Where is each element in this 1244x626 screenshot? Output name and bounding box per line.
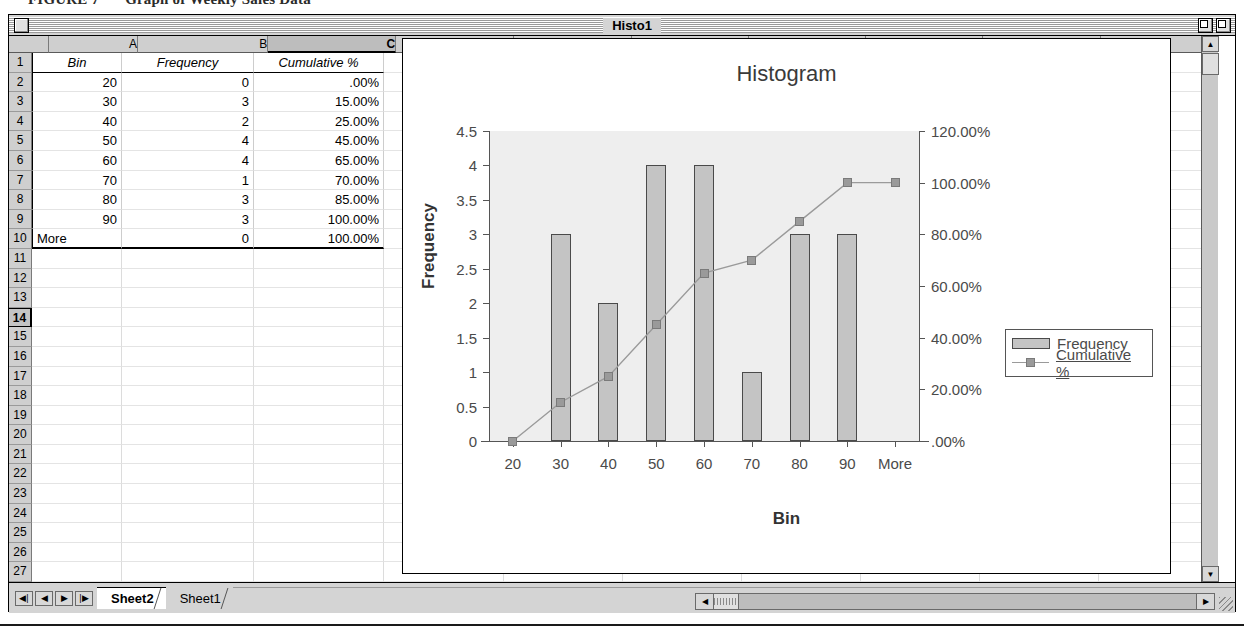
cell-B15[interactable] [122, 327, 254, 347]
cell-B18[interactable] [122, 386, 254, 406]
embedded-chart[interactable]: Histogram 00.511.522.533.544.5.00%20.00%… [402, 38, 1171, 574]
cell-B24[interactable] [122, 504, 254, 524]
cell-B25[interactable] [122, 523, 254, 543]
cell-A10[interactable]: More [32, 229, 122, 249]
cell-C4[interactable]: 25.00% [254, 112, 384, 132]
cell-A2[interactable]: 20 [32, 73, 122, 93]
chart-line-marker[interactable] [652, 320, 661, 329]
cell-A6[interactable]: 60 [32, 151, 122, 171]
cell-C12[interactable] [254, 269, 384, 289]
row-header-12[interactable]: 12 [9, 269, 32, 289]
zoom-box-icon[interactable] [1198, 18, 1213, 33]
chart-bar[interactable] [790, 234, 810, 441]
cell-B9[interactable]: 3 [122, 210, 254, 230]
chart-line-marker[interactable] [843, 178, 852, 187]
cell-C20[interactable] [254, 425, 384, 445]
cell-A19[interactable] [32, 406, 122, 426]
row-header-26[interactable]: 26 [9, 543, 32, 563]
cell-C25[interactable] [254, 523, 384, 543]
chart-line-marker[interactable] [604, 372, 613, 381]
cell-A17[interactable] [32, 367, 122, 387]
cell-B2[interactable]: 0 [122, 73, 254, 93]
cell-B11[interactable] [122, 249, 254, 269]
cell-A24[interactable] [32, 504, 122, 524]
cell-B20[interactable] [122, 425, 254, 445]
row-header-3[interactable]: 3 [9, 92, 32, 112]
row-header-10[interactable]: 10 [9, 229, 32, 249]
cell-C9[interactable]: 100.00% [254, 210, 384, 230]
row-header-24[interactable]: 24 [9, 504, 32, 524]
vertical-scroll-thumb[interactable] [1202, 53, 1219, 75]
scroll-up-arrow-icon[interactable]: ▲ [1202, 36, 1219, 52]
row-header-1[interactable]: 1 [9, 53, 32, 73]
cell-A12[interactable] [32, 269, 122, 289]
scroll-down-arrow-icon[interactable]: ▼ [1202, 566, 1219, 582]
window-resize-grip-icon[interactable] [1219, 597, 1233, 611]
cell-B8[interactable]: 3 [122, 190, 254, 210]
cell-C21[interactable] [254, 445, 384, 465]
cell-A9[interactable]: 90 [32, 210, 122, 230]
cell-C5[interactable]: 45.00% [254, 131, 384, 151]
cell-C13[interactable] [254, 288, 384, 308]
row-header-11[interactable]: 11 [9, 249, 32, 269]
chart-bar[interactable] [551, 234, 571, 441]
cell-A11[interactable] [32, 249, 122, 269]
cell-B12[interactable] [122, 269, 254, 289]
horizontal-scroll-track[interactable] [739, 594, 1196, 609]
cell-C18[interactable] [254, 386, 384, 406]
legend-item-cumulative[interactable]: Cumulative % [1012, 353, 1146, 372]
cell-B5[interactable]: 4 [122, 131, 254, 151]
cell-A27[interactable] [32, 562, 122, 582]
horizontal-scroll-thumb[interactable] [714, 594, 739, 609]
cell-A14[interactable] [32, 308, 122, 328]
window-title-bar[interactable]: Histo1 [9, 15, 1235, 36]
cell-C6[interactable]: 65.00% [254, 151, 384, 171]
row-header-15[interactable]: 15 [9, 327, 32, 347]
cell-A13[interactable] [32, 288, 122, 308]
horizontal-scrollbar[interactable]: ◀ ▶ [695, 593, 1215, 610]
last-sheet-arrow-icon[interactable]: |▶ [75, 591, 93, 606]
row-header-13[interactable]: 13 [9, 288, 32, 308]
cell-A5[interactable]: 50 [32, 131, 122, 151]
row-header-8[interactable]: 8 [9, 190, 32, 210]
cell-B4[interactable]: 2 [122, 112, 254, 132]
prev-sheet-arrow-icon[interactable]: ◀ [35, 591, 53, 606]
cell-B17[interactable] [122, 367, 254, 387]
scroll-left-arrow-icon[interactable]: ◀ [696, 594, 714, 609]
cell-B27[interactable] [122, 562, 254, 582]
vertical-scrollbar[interactable]: ▲ ▼ [1201, 36, 1218, 582]
chart-bar[interactable] [837, 234, 857, 441]
next-sheet-arrow-icon[interactable]: ▶ [55, 591, 73, 606]
cell-C3[interactable]: 15.00% [254, 92, 384, 112]
column-header-a[interactable]: A [49, 36, 138, 53]
chart-bar[interactable] [646, 165, 666, 441]
cell-A20[interactable] [32, 425, 122, 445]
cell-C11[interactable] [254, 249, 384, 269]
row-header-19[interactable]: 19 [9, 406, 32, 426]
row-header-7[interactable]: 7 [9, 171, 32, 191]
cell-C17[interactable] [254, 367, 384, 387]
sheet-tabs[interactable]: Sheet2 Sheet1 [97, 588, 233, 609]
chart-line-marker[interactable] [747, 256, 756, 265]
cell-B21[interactable] [122, 445, 254, 465]
cell-C22[interactable] [254, 464, 384, 484]
row-header-14[interactable]: 14 [9, 308, 32, 328]
row-header-25[interactable]: 25 [9, 523, 32, 543]
cell-A23[interactable] [32, 484, 122, 504]
cell-C23[interactable] [254, 484, 384, 504]
cell-A7[interactable]: 70 [32, 171, 122, 191]
row-header-17[interactable]: 17 [9, 367, 32, 387]
chart-line-marker[interactable] [556, 398, 565, 407]
column-header-c[interactable]: C [268, 36, 396, 53]
cell-A22[interactable] [32, 464, 122, 484]
cell-B6[interactable]: 4 [122, 151, 254, 171]
cell-C16[interactable] [254, 347, 384, 367]
window-controls[interactable] [1198, 18, 1231, 33]
cell-A8[interactable]: 80 [32, 190, 122, 210]
cell-C15[interactable] [254, 327, 384, 347]
close-box-icon[interactable] [14, 18, 29, 33]
cell-B3[interactable]: 3 [122, 92, 254, 112]
row-header-23[interactable]: 23 [9, 484, 32, 504]
select-all-corner[interactable] [9, 36, 49, 53]
cell-A25[interactable] [32, 523, 122, 543]
